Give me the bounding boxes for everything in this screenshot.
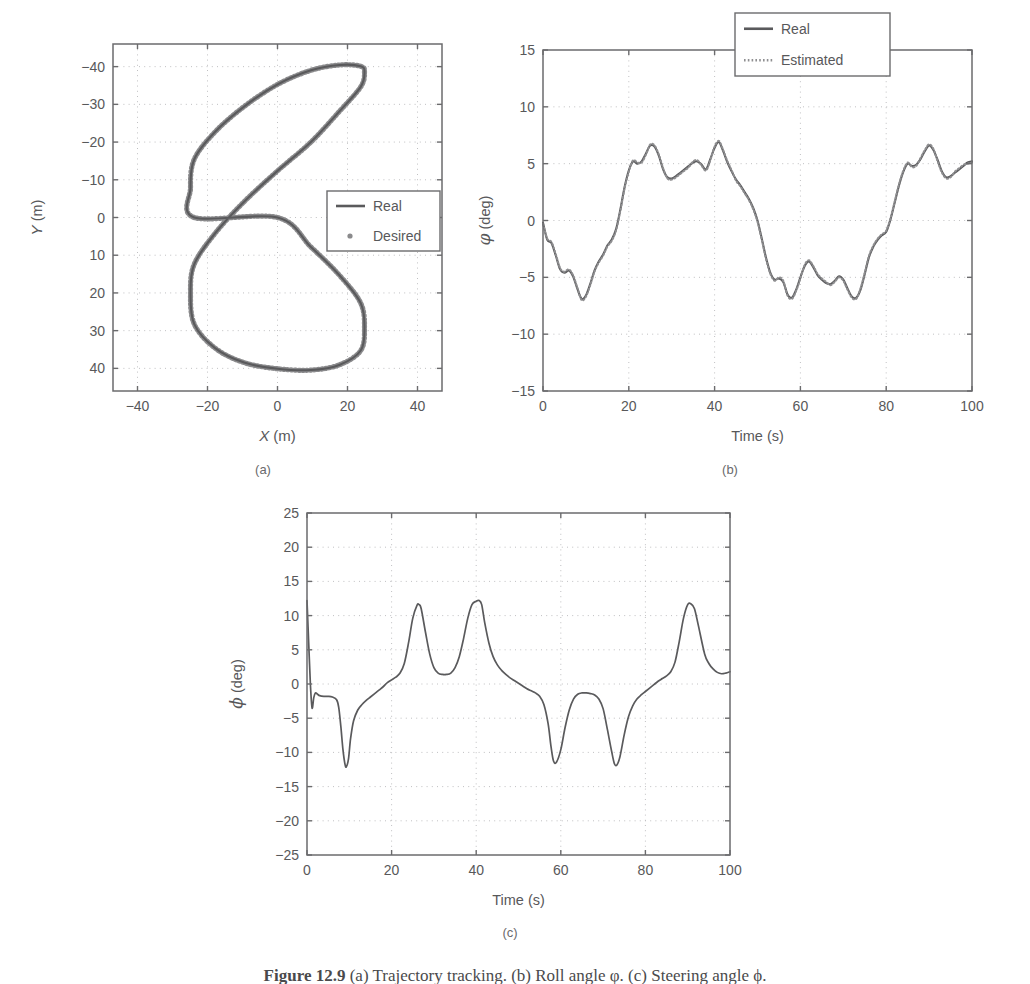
panel-b-xtick-label: 40 [707,398,723,414]
chart-panel-a: −40−2002040−40−30−20−10010203040X (m)Y (… [0,0,470,450]
subcaption-a: (a) [233,462,293,477]
panel-a-xtick-label: 0 [274,398,282,414]
panel-c-ytick-label: 0 [291,676,299,692]
panel-c-xtick-label: 60 [553,862,569,878]
panel-a-ytick-label: −30 [81,96,105,112]
panel-a-ytick-label: −10 [81,172,105,188]
panel-b-xtick-label: 0 [539,398,547,414]
panel-b-xtick-label: 100 [960,398,984,414]
figure-caption-label: Figure 12.9 [264,966,346,984]
panel-c-xtick-label: 80 [638,862,654,878]
panel-c-xaxis-title: Time (s) [492,892,545,908]
panel-c-xtick-label: 100 [718,862,742,878]
panel-a-svg: −40−2002040−40−30−20−10010203040X (m)Y (… [0,0,470,450]
panel-c-svg: 020406080100−25−20−15−10−50510152025Time… [180,490,800,890]
panel-b-ytick-label: 5 [527,156,535,172]
panel-a-ytick-label: −20 [81,134,105,150]
panel-a-xtick-label: −20 [196,398,220,414]
panel-b-ytick-label: −5 [519,269,535,285]
panel-a-yaxis-title: Y (m) [28,200,45,236]
panel-c-ytick-label: 20 [283,539,299,555]
figure-caption-text: (a) Trajectory tracking. (b) Roll angle … [345,966,766,984]
panel-a-xaxis-title: X (m) [258,427,296,444]
panel-c-xtick-label: 40 [468,862,484,878]
panel-b-xaxis-title: Time (s) [731,428,784,444]
panel-a-xtick-label: 20 [340,398,356,414]
panel-a-ytick-label: 20 [89,285,105,301]
subcaption-b: (b) [700,462,760,477]
panel-c-xtick-label: 20 [384,862,400,878]
legend-marker-swatch [347,233,352,238]
figure-root: −40−2002040−40−30−20−10010203040X (m)Y (… [0,0,1030,984]
panel-c-ytick-label: −20 [275,813,299,829]
panel-b-xtick-label: 20 [621,398,637,414]
panel-c-ytick-label: −25 [275,847,299,863]
legend-label: Estimated [781,52,843,68]
legend-label: Real [373,198,402,214]
panel-c-ytick-label: 15 [283,573,299,589]
panel-b-legend: RealEstimated [735,13,890,76]
panel-a-ytick-label: 40 [89,360,105,376]
panel-c-yaxis-title: ϕ (deg) [226,659,246,708]
panel-c-ytick-label: −5 [283,710,299,726]
panel-a-xtick-label: −40 [126,398,150,414]
panel-a-ytick-label: 30 [89,323,105,339]
panel-a-ytick-label: 0 [97,210,105,226]
chart-panel-c: 020406080100−25−20−15−10−50510152025Time… [180,490,800,890]
panel-b-ytick-label: 0 [527,213,535,229]
figure-caption: Figure 12.9 (a) Trajectory tracking. (b)… [0,963,1030,984]
panel-b-svg: 020406080100−15−10−5051015Time (s)φ (deg… [470,0,1030,450]
panel-a-ytick-label: 10 [89,247,105,263]
subcaption-c: (c) [480,925,540,940]
panel-c-ytick-label: 5 [291,642,299,658]
panel-b-xtick-label: 80 [878,398,894,414]
panel-c-ytick-label: −15 [275,779,299,795]
panel-b-xtick-label: 60 [793,398,809,414]
panel-a-legend: RealDesired [327,191,440,251]
panel-c-plot-area: 020406080100−25−20−15−10−50510152025Time… [226,505,742,908]
panel-b-plot-area: 020406080100−15−10−5051015Time (s)φ (deg… [474,13,984,444]
legend-label: Real [781,21,810,37]
panel-b-yaxis-title: φ (deg) [474,196,494,246]
panel-a-plot-area: −40−2002040−40−30−20−10010203040X (m)Y (… [28,44,442,444]
legend-label: Desired [373,228,421,244]
panel-b-ytick-label: 15 [519,42,535,58]
panel-b-ytick-label: 10 [519,99,535,115]
panel-a-ytick-label: −40 [81,59,105,75]
panel-c-ytick-label: −10 [275,744,299,760]
panel-c-ytick-label: 10 [283,608,299,624]
chart-panel-b: 020406080100−15−10−5051015Time (s)φ (deg… [470,0,1030,450]
panel-b-ytick-label: −15 [511,383,535,399]
panel-c-ytick-label: 25 [283,505,299,521]
panel-b-ytick-label: −10 [511,326,535,342]
panel-a-xtick-label: 40 [410,398,426,414]
panel-c-xtick-label: 0 [303,862,311,878]
